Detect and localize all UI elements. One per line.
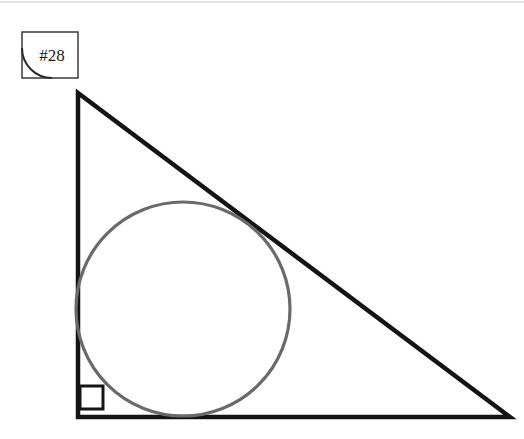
figure-canvas (0, 0, 524, 439)
geometry-figure-page: #28 (0, 0, 524, 439)
